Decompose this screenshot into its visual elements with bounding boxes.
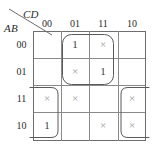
kmap-cell-r01-c01[interactable]: × [61, 58, 89, 85]
kmap-cell-r10-c11[interactable]: × [89, 112, 117, 139]
kmap-cell-r00-c01[interactable]: 1 [61, 31, 89, 58]
kmap-cell-r00-c11[interactable]: × [89, 31, 117, 58]
row-header-0: 00 [12, 38, 31, 51]
row-header-3: 10 [12, 119, 31, 132]
kmap-cell-r11-c00[interactable]: × [33, 85, 61, 112]
row-variable-label: AB [4, 22, 18, 34]
kmap-cell-r10-c10[interactable]: × [118, 112, 146, 139]
kmap-cell-r01-c00[interactable] [33, 58, 61, 85]
column-header-0: 00 [33, 17, 61, 30]
kmap-cell-r11-c11[interactable] [89, 85, 117, 112]
kmap-cell-r10-c00[interactable]: 1 [33, 112, 61, 139]
kmap-cell-r00-c10[interactable] [118, 31, 146, 58]
karnaugh-map-figure: CD AB 00 01 11 10 00 01 11 10 1 × × 1 × … [0, 0, 154, 151]
row-header-1: 01 [12, 65, 31, 78]
kmap-cell-r10-c01[interactable] [61, 112, 89, 139]
kmap-cell-r00-c00[interactable] [33, 31, 61, 58]
row-header-2: 11 [12, 92, 31, 105]
column-header-2: 11 [89, 17, 117, 30]
kmap-cell-r11-c01[interactable]: × [61, 85, 89, 112]
kmap-cell-r01-c10[interactable] [118, 58, 146, 85]
kmap-grid: 1 × × 1 × × × 1 × × [33, 31, 146, 141]
column-header-3: 10 [118, 17, 146, 30]
kmap-cell-r01-c11[interactable]: 1 [89, 58, 117, 85]
column-header-1: 01 [61, 17, 89, 30]
kmap-cell-r11-c10[interactable]: × [118, 85, 146, 112]
